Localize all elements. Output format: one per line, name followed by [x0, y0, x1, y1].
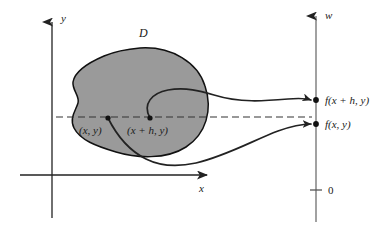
domain-region-d: [72, 48, 208, 157]
w-axis-label: w: [325, 9, 333, 21]
point-xy-label: (x, y): [79, 124, 102, 137]
x-axis-label: x: [198, 182, 204, 194]
region-label-d: D: [138, 26, 148, 40]
point-xhy-label: (x + h, y): [127, 124, 168, 137]
y-axis-label: y: [60, 12, 66, 24]
value-fxy-label: f(x, y): [325, 118, 351, 131]
function-mapping-diagram: y x D (x, y) (x + h, y) w f(x + h, y) f(…: [0, 0, 390, 237]
point-xhy-dot: [147, 115, 152, 120]
value-fxhy-dot: [313, 97, 319, 103]
value-fxy-dot: [313, 121, 319, 127]
point-xy-dot: [105, 115, 110, 120]
value-fxhy-label: f(x + h, y): [325, 94, 369, 107]
w-axis-group: [310, 16, 322, 222]
w-axis-origin-label: 0: [328, 184, 334, 196]
